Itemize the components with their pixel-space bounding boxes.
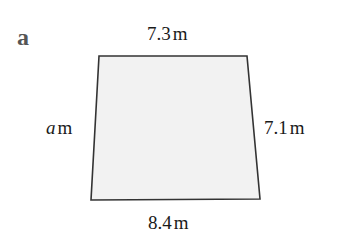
bottom-side-unit: m [174,212,189,233]
quadrilateral-shape [91,56,260,200]
right-side-label: 7.1m [264,118,305,137]
top-side-unit: m [173,23,188,44]
diagram-canvas: a 7.3m 7.1m 8.4m am [0,0,342,246]
top-side-label: 7.3m [147,24,188,43]
left-side-label: am [46,118,72,137]
bottom-side-label: 8.4m [148,213,189,232]
right-side-value: 7.1 [264,117,288,138]
left-side-unit: m [58,117,73,138]
part-label: a [17,25,29,49]
bottom-side-value: 8.4 [148,212,172,233]
left-side-variable: a [46,117,56,138]
right-side-unit: m [290,117,305,138]
top-side-value: 7.3 [147,23,171,44]
